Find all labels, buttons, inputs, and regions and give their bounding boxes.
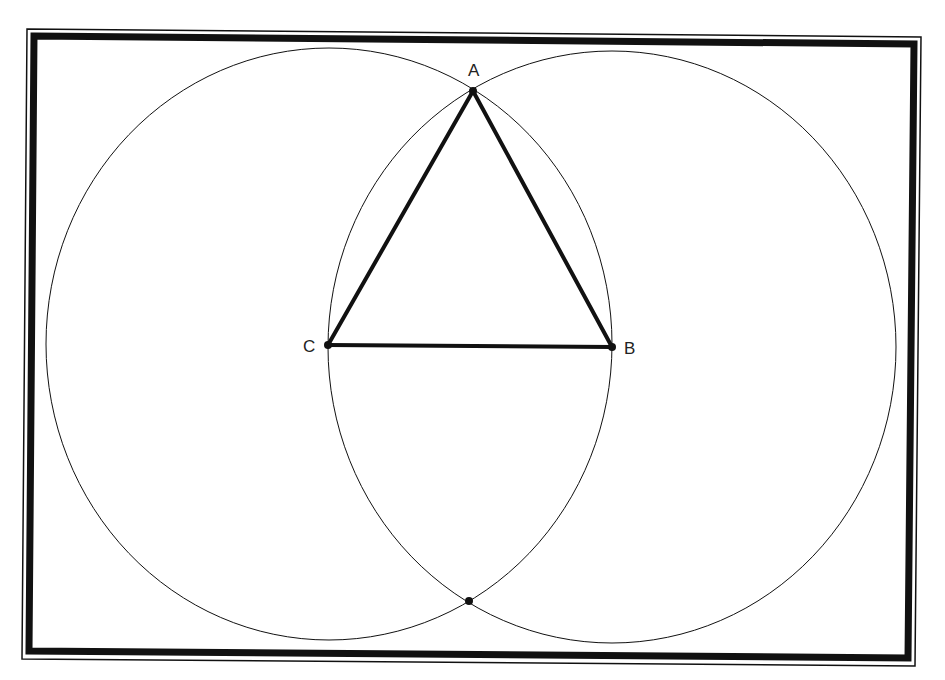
point-D [465, 597, 473, 605]
point-B [608, 343, 616, 351]
point-labels: ABC [303, 61, 635, 358]
segment-BC [328, 345, 612, 347]
point-C [324, 341, 332, 349]
segment-CA [328, 91, 473, 345]
label-A: A [468, 61, 480, 80]
triangle-segments [328, 91, 612, 347]
label-C: C [303, 337, 315, 356]
segment-AB [473, 91, 612, 347]
geometry-canvas: ABC [0, 0, 945, 680]
label-B: B [624, 339, 635, 358]
point-A [469, 87, 477, 95]
